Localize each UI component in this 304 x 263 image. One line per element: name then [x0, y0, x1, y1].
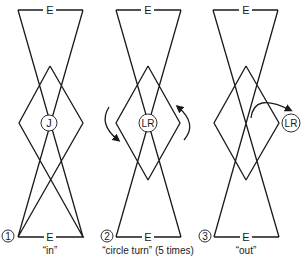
dance-diagram: E E J 1 “in” E E LR 2 “circle turn” (5 t…	[0, 0, 304, 263]
position-marker-label: J	[46, 117, 52, 129]
step-caption: “out”	[236, 245, 257, 256]
top-end-label: E	[242, 4, 249, 16]
step-caption: “in”	[43, 245, 57, 256]
figure-path	[213, 10, 279, 237]
bottom-end-label: E	[144, 231, 151, 243]
bottom-end-label: E	[46, 231, 53, 243]
bottom-end-label: E	[242, 231, 249, 243]
panel-2: E E LR 2 “circle turn” (5 times)	[101, 4, 194, 256]
step-caption: “circle turn” (5 times)	[102, 245, 194, 256]
top-end-label: E	[144, 4, 151, 16]
panel-3: E E LR 3 “out”	[199, 4, 300, 256]
step-number: 3	[202, 231, 208, 242]
panel-1: E E J 1 “in”	[2, 4, 84, 256]
step-number: 1	[5, 231, 11, 242]
step-number: 2	[104, 231, 110, 242]
exit-arrow-icon	[251, 103, 290, 118]
top-end-label: E	[46, 4, 53, 16]
position-marker-label: LR	[285, 118, 298, 129]
position-marker-label: LR	[142, 118, 155, 129]
